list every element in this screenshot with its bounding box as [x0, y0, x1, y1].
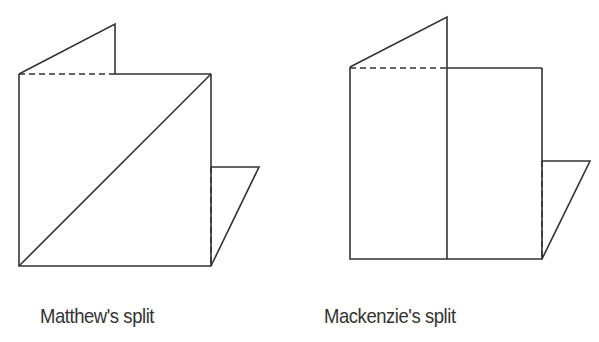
- caption-matthews-split: Matthew's split: [40, 304, 154, 328]
- caption-mackenzies-split: Mackenzie's split: [324, 304, 456, 328]
- right-flap: [542, 161, 590, 259]
- top-flap: [19, 24, 211, 74]
- figure-mackenzies-split: [350, 17, 590, 259]
- figure-matthews-split: [19, 24, 259, 266]
- diagram-canvas: [0, 0, 599, 342]
- top-flap: [350, 17, 542, 68]
- diagonal-split-line: [19, 74, 211, 266]
- right-flap: [211, 167, 259, 266]
- square-outline: [350, 67, 542, 259]
